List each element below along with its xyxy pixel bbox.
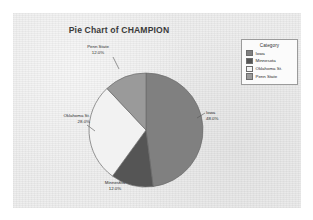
legend-swatch-icon — [246, 50, 253, 56]
slice-label-oklahoma-st-percent: 28.0% — [34, 119, 90, 125]
slice-label-minnesota: Minnesota 12.0% — [85, 180, 145, 191]
legend-item-label: Iowa — [256, 51, 265, 56]
slice-label-iowa: Iowa 48.0% — [206, 110, 218, 121]
slice-label-penn-state-percent: 12.0% — [70, 50, 126, 56]
leader-line-penn-state — [113, 57, 119, 69]
slice-label-iowa-name: Iowa — [206, 110, 215, 115]
legend-swatch-icon — [246, 73, 253, 79]
chart-legend: Category IowaMinnesotaOklahoma St.Penn S… — [241, 39, 298, 85]
chart-panel: Pie Chart of CHAMPION Iowa 48.0% Oklahom… — [13, 13, 301, 208]
slice-label-penn-state: Penn State 12.0% — [70, 44, 126, 55]
slice-label-iowa-percent: 48.0% — [206, 116, 218, 122]
legend-item-label: Penn State — [256, 74, 278, 79]
legend-item-label: Minnesota — [256, 58, 276, 63]
legend-item-oklahoma-st[interactable]: Oklahoma St. — [246, 66, 294, 72]
legend-item-penn-state[interactable]: Penn State — [246, 73, 294, 79]
legend-item-minnesota[interactable]: Minnesota — [246, 58, 294, 64]
slice-label-penn-state-name: Penn State — [87, 44, 109, 49]
legend-items: IowaMinnesotaOklahoma St.Penn State — [245, 50, 294, 80]
slice-label-oklahoma-st: Oklahoma St. 28.0% — [34, 113, 90, 124]
slice-label-minnesota-percent: 12.0% — [85, 186, 145, 192]
legend-swatch-icon — [246, 66, 253, 72]
legend-item-label: Oklahoma St. — [256, 66, 283, 71]
legend-item-iowa[interactable]: Iowa — [246, 50, 294, 56]
pie-slice-iowa — [146, 73, 203, 187]
legend-swatch-icon — [246, 58, 253, 64]
pie-chart-screenshot: Pie Chart of CHAMPION Iowa 48.0% Oklahom… — [0, 0, 313, 220]
pie-slices — [89, 73, 203, 187]
slice-label-minnesota-name: Minnesota — [105, 180, 125, 185]
slice-label-oklahoma-st-name: Oklahoma St. — [63, 113, 90, 118]
legend-title: Category — [245, 43, 294, 48]
